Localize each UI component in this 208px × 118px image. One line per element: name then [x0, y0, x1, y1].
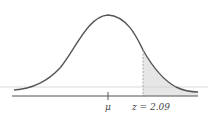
z-label: z = 2.09 — [131, 102, 170, 112]
normal-curve-svg: μ z = 2.09 — [0, 0, 208, 118]
bell-curve — [14, 15, 198, 92]
mean-label: μ — [105, 102, 111, 112]
shaded-tail-region — [143, 50, 198, 96]
normal-curve-figure: μ z = 2.09 — [0, 0, 208, 118]
